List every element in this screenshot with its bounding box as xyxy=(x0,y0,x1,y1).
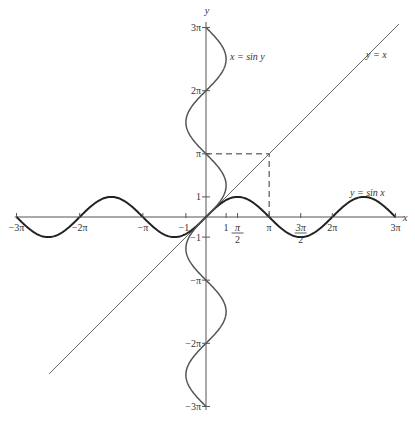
y-tick-label: −1 xyxy=(190,232,201,243)
x-tick-label: 2π xyxy=(327,222,337,233)
y-axis-label: y xyxy=(204,5,210,16)
y-tick-label: 1 xyxy=(196,191,201,202)
label-y-equals-x: y = x xyxy=(365,49,387,60)
label-x-sin-y: x = sin y xyxy=(229,51,265,62)
x-tick-label: −π xyxy=(138,222,149,233)
x-tick-label: 1 xyxy=(224,222,229,233)
x-tick-label: −3π xyxy=(9,222,25,233)
y-tick-label: −3π xyxy=(185,401,201,412)
y-tick-label: −2π xyxy=(185,338,201,349)
x-tick-label: −1 xyxy=(179,222,190,233)
y-tick-label: 2π xyxy=(191,85,201,96)
function-graph: −3π−2π−π−11π2π3π22π3π3π2ππ1−1−π−2π−3πy =… xyxy=(0,0,415,422)
x-tick-label-denominator: 2 xyxy=(298,234,303,245)
x-tick-label: 3π xyxy=(390,222,400,233)
x-axis-label: x xyxy=(402,212,408,223)
y-tick-label: 3π xyxy=(191,22,201,33)
label-y-sin-x: y = sin x xyxy=(349,187,385,198)
y-tick-label: π xyxy=(196,148,201,159)
x-tick-label-numerator: π xyxy=(235,222,241,233)
x-tick-label: −2π xyxy=(72,222,88,233)
x-tick-label: π xyxy=(267,222,272,233)
x-tick-label-numerator: 3π xyxy=(295,222,307,233)
y-tick-label: −π xyxy=(190,275,201,286)
x-tick-label-denominator: 2 xyxy=(235,234,240,245)
